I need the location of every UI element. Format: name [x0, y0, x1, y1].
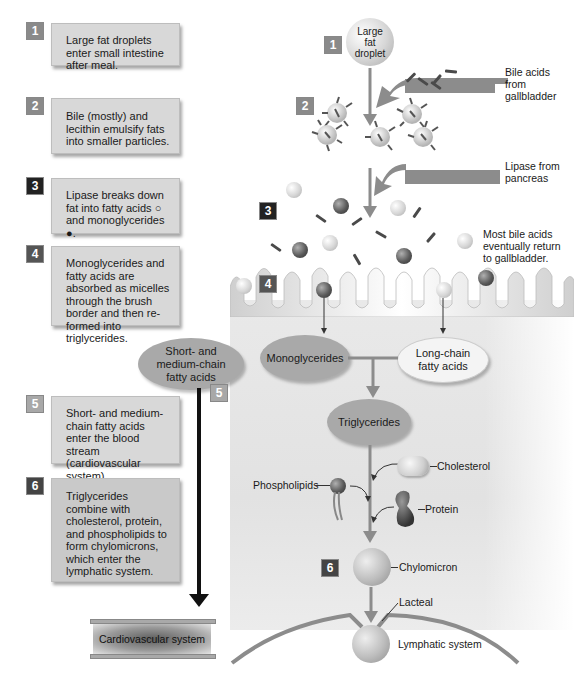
- lymphatic-label: Lymphatic system: [398, 638, 482, 650]
- diagram-badge-3: 3: [260, 203, 276, 219]
- bile-acid-rod: [426, 232, 436, 243]
- protein-shape: [393, 490, 419, 528]
- step-text-2: Bile (mostly) and lecithin emulsify fats…: [66, 110, 169, 147]
- step-badge-3: 3: [27, 178, 43, 194]
- protein-leader: [418, 509, 425, 510]
- step-badge-6: 6: [27, 478, 43, 494]
- large-fat-droplet: Large fat droplet: [346, 18, 394, 66]
- monoglycerides-label: Monoglycerides: [266, 352, 343, 365]
- step-text-4: Monoglycerides and fatty acids are absor…: [66, 257, 169, 344]
- step-box-6: Triglycerides combine with cholesterol, …: [51, 478, 180, 582]
- lipase-label: Lipase from pancreas: [505, 160, 565, 184]
- fatty-acid-sphere: [457, 233, 473, 249]
- step-text-1: Large fat droplets enter small intestine…: [66, 34, 164, 71]
- bile-return-label: Most bile acids eventually return to gal…: [483, 228, 571, 264]
- step-badge-5: 5: [27, 396, 43, 412]
- fatty-acid-sphere: [436, 282, 452, 298]
- phospholipids-leader: [315, 485, 330, 486]
- lacteal-label: Lacteal: [399, 596, 433, 608]
- lipase-arrow-head: [372, 162, 412, 202]
- bile-acids-label: Bile acids from gallbladder: [505, 66, 565, 102]
- step-box-4: Monoglycerides and fatty acids are absor…: [51, 246, 180, 326]
- lymphatic-sphere: [352, 625, 390, 663]
- long-chain-ellipse: Long-chain fatty acids: [397, 337, 489, 383]
- droplet-label: Large fat droplet: [353, 26, 387, 59]
- step-box-2: Bile (mostly) and lecithin emulsify fats…: [51, 98, 180, 154]
- cardiovascular-vessel-bottom: [90, 654, 216, 659]
- cholesterol-leader: [430, 466, 437, 467]
- cholesterol-label: Cholesterol: [437, 460, 490, 472]
- diagram-badge-4: 4: [260, 276, 276, 292]
- merge-connector: [348, 352, 400, 402]
- triglycerides-label: Triglycerides: [338, 416, 400, 429]
- cardiovascular-arrow-head: [189, 594, 209, 608]
- short-medium-chain-ellipse: Short- and medium-chain fatty acids: [138, 338, 244, 390]
- protein-label: Protein: [425, 503, 458, 515]
- step-text-3: Lipase breaks down fat into fatty acids …: [66, 189, 164, 239]
- monoglyceride-sphere: [478, 270, 494, 286]
- diagram-badge-5: 5: [211, 385, 227, 401]
- fatty-acid-sphere: [236, 278, 252, 294]
- step-badge-1: 1: [27, 23, 43, 39]
- absorption-arrows: [318, 298, 448, 343]
- step-text-6: Triglycerides combine with cholesterol, …: [66, 490, 167, 577]
- step-text-5: Short- and medium-chain fatty acids ente…: [66, 407, 163, 482]
- step-box-1: Large fat droplets enter small intestine…: [51, 23, 180, 66]
- monoglyceride-sphere: [316, 282, 332, 298]
- short-chain-label: Short- and medium-chain fatty acids: [147, 345, 235, 384]
- monoglyceride-sphere: [333, 198, 349, 214]
- cardiovascular-vessel: Cardiovascular system: [93, 624, 211, 654]
- bile-acid-rod: [270, 243, 282, 252]
- step-badge-2: 2: [27, 98, 43, 114]
- cardiovascular-flow-line: [197, 388, 201, 598]
- diagram-badge-1: 1: [325, 37, 341, 53]
- phospholipid-merge-arrow: [348, 482, 373, 504]
- emulsified-fat-particles: [295, 85, 465, 165]
- bile-acid-rod: [315, 214, 327, 223]
- step-badge-4: 4: [27, 246, 43, 262]
- phospholipids-label: Phospholipids: [253, 479, 318, 491]
- chylomicron-sphere: [353, 548, 391, 586]
- fatty-acid-sphere: [390, 200, 406, 216]
- cardiovascular-label: Cardiovascular system: [99, 633, 205, 645]
- chylomicron-leader: [391, 567, 398, 568]
- fatty-acid-sphere: [322, 235, 338, 251]
- step-box-3: Lipase breaks down fat into fatty acids …: [51, 178, 180, 234]
- triglycerides-ellipse: Triglycerides: [327, 399, 411, 445]
- cell-edge-fade: [484, 300, 574, 630]
- lipase-arrow-body: [405, 170, 500, 184]
- monoglycerides-ellipse: Monoglycerides: [260, 335, 350, 381]
- monoglyceride-sphere: [292, 242, 308, 258]
- phospholipid-tails: [330, 492, 346, 524]
- step-box-5: Short- and medium-chain fatty acids ente…: [51, 396, 180, 464]
- diagram-badge-6: 6: [322, 560, 338, 576]
- bile-acid-rod: [412, 207, 421, 219]
- fatty-acid-sphere: [286, 182, 302, 198]
- chylomicron-label: Chylomicron: [399, 561, 457, 573]
- cholesterol-shape: [397, 456, 429, 476]
- long-chain-label: Long-chain fatty acids: [413, 347, 473, 373]
- monoglyceride-sphere: [396, 248, 412, 264]
